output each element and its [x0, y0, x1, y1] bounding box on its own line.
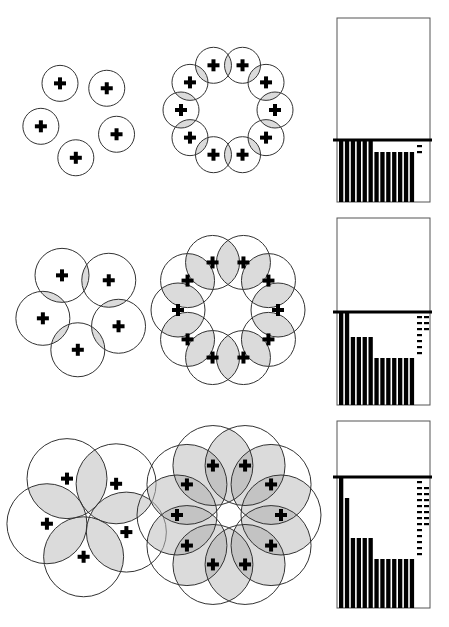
histogram-bar — [357, 538, 361, 608]
plus-marker-icon — [260, 76, 272, 88]
histogram-bar — [404, 152, 408, 202]
histogram-bar — [363, 538, 367, 608]
plus-marker-icon — [61, 473, 73, 485]
dash-mark — [417, 553, 422, 555]
figure-canvas — [0, 0, 449, 627]
histogram-bar — [410, 358, 414, 405]
histogram-bar — [392, 358, 396, 405]
dash-mark — [417, 541, 422, 543]
dash-mark — [424, 523, 429, 525]
plus-marker-icon — [101, 82, 113, 94]
dash-mark — [417, 322, 422, 324]
histogram-bar — [380, 152, 384, 202]
dash-mark — [417, 316, 422, 318]
dash-mark — [417, 151, 422, 153]
dash-mark — [424, 505, 429, 507]
dash-mark — [417, 547, 422, 549]
dash-mark — [424, 511, 429, 513]
dash-mark — [417, 529, 422, 531]
ring-5-2 — [16, 248, 146, 376]
dash-mark — [417, 352, 422, 354]
overlap-shading — [137, 426, 321, 605]
dash-mark — [424, 322, 429, 324]
histogram-bar — [380, 559, 384, 608]
histogram-bar — [369, 538, 373, 608]
histogram-bar — [374, 358, 378, 405]
dash-mark — [417, 511, 422, 513]
histogram-bar — [404, 559, 408, 608]
dash-mark — [424, 487, 429, 489]
histogram-bar — [363, 140, 367, 202]
dash-mark — [417, 487, 422, 489]
histogram-bar — [410, 559, 414, 608]
histogram-bar — [369, 337, 373, 405]
plus-marker-icon — [78, 551, 90, 563]
dash-mark — [417, 346, 422, 348]
histogram-bar — [363, 337, 367, 405]
plus-marker-icon — [56, 269, 68, 281]
dash-mark — [417, 481, 422, 483]
histogram-3 — [333, 421, 432, 608]
dash-mark — [424, 316, 429, 318]
histogram-bar — [374, 152, 378, 202]
histogram-bar — [357, 140, 361, 202]
dash-mark — [417, 145, 422, 147]
dash-mark — [417, 493, 422, 495]
dash-mark — [417, 517, 422, 519]
dash-mark — [417, 340, 422, 342]
dash-mark — [424, 493, 429, 495]
histogram-bar — [357, 337, 361, 405]
histogram-1 — [333, 18, 432, 202]
plus-marker-icon — [113, 320, 125, 332]
histogram-bar — [339, 477, 343, 608]
histogram-bar — [351, 538, 355, 608]
plus-marker-icon — [37, 312, 49, 324]
histogram-bar — [392, 559, 396, 608]
ring-10-3 — [137, 426, 321, 605]
plus-marker-icon — [54, 77, 66, 89]
plus-marker-icon — [269, 104, 281, 116]
histogram-bar — [339, 140, 343, 202]
histogram-bar — [398, 358, 402, 405]
dash-mark — [417, 535, 422, 537]
dash-mark — [424, 517, 429, 519]
histogram-bar — [339, 312, 343, 405]
dash-mark — [417, 523, 422, 525]
plus-marker-icon — [110, 478, 122, 490]
dash-mark — [417, 328, 422, 330]
plus-marker-icon — [237, 59, 249, 71]
histogram-bar — [351, 140, 355, 202]
histogram-2 — [333, 218, 432, 405]
dash-mark — [424, 499, 429, 501]
dash-mark — [417, 499, 422, 501]
ring-5-1 — [23, 65, 135, 175]
histogram-bar — [369, 140, 373, 202]
ring-10-1 — [163, 47, 293, 172]
plus-marker-icon — [207, 149, 219, 161]
histogram-bar — [410, 152, 414, 202]
ring-10-2 — [151, 235, 305, 384]
histogram-bar — [380, 358, 384, 405]
plus-marker-icon — [41, 518, 53, 530]
histogram-bar — [398, 559, 402, 608]
histogram-bar — [386, 559, 390, 608]
plus-marker-icon — [35, 120, 47, 132]
plus-marker-icon — [111, 128, 123, 140]
histogram-bar — [345, 312, 349, 405]
plus-marker-icon — [70, 152, 82, 164]
histogram-bar — [398, 152, 402, 202]
histogram-bar — [374, 559, 378, 608]
histogram-bar — [386, 152, 390, 202]
plus-marker-icon — [72, 344, 84, 356]
histogram-bar — [386, 358, 390, 405]
plus-marker-icon — [207, 59, 219, 71]
histogram-bar — [345, 498, 349, 608]
plus-marker-icon — [103, 274, 115, 286]
dash-mark — [417, 334, 422, 336]
plus-marker-icon — [237, 149, 249, 161]
histogram-bar — [404, 358, 408, 405]
ring-5-3 — [7, 439, 166, 597]
histogram-bar — [392, 152, 396, 202]
dash-mark — [424, 328, 429, 330]
plus-marker-icon — [184, 76, 196, 88]
